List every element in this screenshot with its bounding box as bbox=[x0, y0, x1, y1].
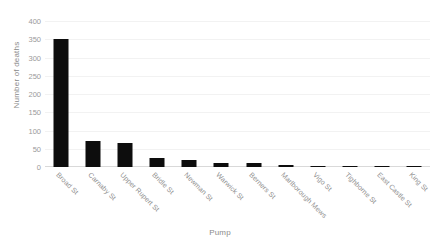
bar-slot bbox=[141, 21, 173, 167]
y-axis-tick-label: 300 bbox=[28, 53, 41, 62]
bar[interactable] bbox=[86, 141, 101, 167]
bar[interactable] bbox=[182, 160, 197, 167]
y-axis-tick-label: 150 bbox=[28, 108, 41, 117]
x-axis-tick-label: Broad St bbox=[55, 171, 80, 196]
bar-slot bbox=[334, 21, 366, 167]
bar[interactable] bbox=[118, 143, 133, 167]
bar[interactable] bbox=[342, 166, 357, 167]
bar[interactable] bbox=[278, 165, 293, 167]
x-axis-tick-label: Tighborne St bbox=[344, 171, 378, 205]
y-axis-tick-label: 400 bbox=[28, 17, 41, 26]
y-axis-tick-label: 350 bbox=[28, 35, 41, 44]
y-axis-tick-label: 200 bbox=[28, 90, 41, 99]
bar[interactable] bbox=[150, 158, 165, 167]
bar-group bbox=[45, 21, 430, 167]
y-axis-tick-label: 250 bbox=[28, 71, 41, 80]
y-axis-tick-label: 0 bbox=[37, 163, 41, 172]
bar[interactable] bbox=[246, 163, 261, 167]
bar-slot bbox=[302, 21, 334, 167]
bar-slot bbox=[238, 21, 270, 167]
y-axis-tick-label: 50 bbox=[33, 144, 41, 153]
x-axis-tick-label: King St bbox=[408, 171, 429, 192]
bar[interactable] bbox=[54, 39, 69, 167]
x-axis-tick-label: Warwick St bbox=[216, 171, 246, 201]
bar-slot bbox=[109, 21, 141, 167]
bar-chart: Number of deaths 05010015020025030035040… bbox=[0, 0, 440, 246]
bar-slot bbox=[45, 21, 77, 167]
bar-slot bbox=[270, 21, 302, 167]
bar-slot bbox=[77, 21, 109, 167]
x-axis-title: Pump bbox=[0, 228, 440, 237]
plot-area: 050100150200250300350400 bbox=[45, 21, 430, 167]
x-axis-tick-label: Bridle St bbox=[151, 171, 175, 195]
x-axis-tick-label: East Castle St bbox=[376, 171, 413, 208]
y-axis-tick-label: 100 bbox=[28, 126, 41, 135]
x-axis-tick-label: Vigo St bbox=[312, 171, 333, 192]
x-axis-tick-group: Broad StCarnaby StUpper Rupert StBridle … bbox=[45, 168, 430, 224]
bar[interactable] bbox=[214, 163, 229, 167]
x-axis-tick-label: Newman St bbox=[183, 171, 214, 202]
bar-slot bbox=[205, 21, 237, 167]
bar[interactable] bbox=[406, 166, 421, 167]
bar-slot bbox=[366, 21, 398, 167]
bar-slot bbox=[173, 21, 205, 167]
bar-slot bbox=[398, 21, 430, 167]
bar[interactable] bbox=[374, 166, 389, 167]
x-axis-tick-label: Berners St bbox=[248, 171, 277, 200]
y-axis-title: Number of deaths bbox=[10, 2, 24, 148]
bar[interactable] bbox=[310, 166, 325, 167]
x-axis-tick-label: Carnaby St bbox=[87, 171, 117, 201]
